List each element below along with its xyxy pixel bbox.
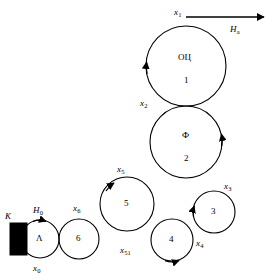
- label-x4-sub: 4: [200, 242, 203, 249]
- node-3-number: 3: [211, 207, 216, 216]
- circle-group: [21, 26, 235, 261]
- label-h0: H0: [33, 206, 43, 216]
- node-2-caption: Ф: [182, 131, 189, 140]
- label-x4: x4: [196, 239, 203, 249]
- node-5-number: 5: [124, 199, 129, 208]
- label-x1-sub: 1: [178, 11, 181, 18]
- source-marker-label: K: [5, 212, 11, 221]
- node-4-number: 4: [169, 235, 174, 244]
- label-x1: x1: [174, 8, 181, 18]
- label-x5: x5: [117, 165, 124, 175]
- flow-arrow-node5: [106, 183, 114, 191]
- diagram-canvas: ОЦ 1 Ф 2 3 4 5 6 Λ K x1 x2 x3 x4 x5 x51 …: [0, 0, 268, 280]
- label-ha: Ha: [230, 25, 240, 35]
- flow-arrow-node2: [221, 134, 222, 146]
- label-x5-sub: 5: [121, 168, 124, 175]
- node-lambda-caption: Λ: [36, 234, 43, 243]
- label-x0-sub: 0: [37, 267, 40, 274]
- source-block: [10, 223, 27, 255]
- node-2-number: 2: [184, 154, 189, 163]
- label-x51: x51: [120, 246, 131, 256]
- label-x51-sub: 51: [124, 249, 131, 256]
- label-x3-sub: 3: [228, 185, 231, 192]
- label-x3: x3: [224, 182, 231, 192]
- node-1-caption: ОЦ: [178, 53, 191, 62]
- flow-arrow-lambda: [33, 220, 46, 221]
- node-circle-2: [150, 106, 222, 178]
- label-x2: x2: [140, 99, 147, 109]
- node-1-number: 1: [184, 76, 189, 85]
- label-x2-sub: 2: [144, 102, 147, 109]
- label-ha-base: H: [230, 24, 237, 34]
- label-ha-sub: a: [237, 28, 240, 35]
- label-x0: x0: [33, 264, 40, 274]
- node-circle-1: [146, 26, 226, 106]
- direction-arrowheads: [33, 62, 222, 262]
- label-h0-base: H: [33, 205, 40, 215]
- label-h0-sub: 0: [40, 209, 43, 216]
- flow-arrow-node3: [193, 206, 194, 217]
- label-x6-sub: 6: [77, 207, 80, 214]
- node-6-number: 6: [76, 234, 81, 243]
- label-x6: x6: [73, 204, 80, 214]
- flow-arrow-node1: [146, 62, 147, 74]
